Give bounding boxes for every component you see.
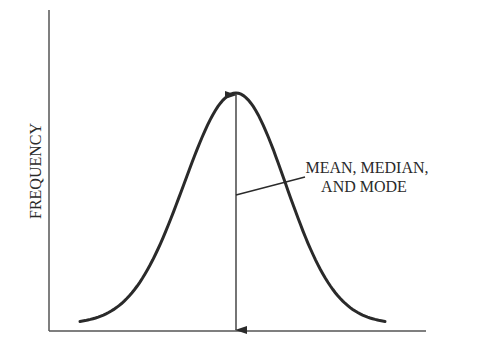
normal-curve xyxy=(80,93,385,321)
annotation-line-1: MEAN, MEDIAN, xyxy=(305,159,428,176)
y-axis-label: FREQUENCY xyxy=(27,123,44,219)
annotation-line-2: AND MODE xyxy=(321,178,407,195)
bell-curve-diagram: MEAN, MEDIAN, AND MODE FREQUENCY xyxy=(0,0,478,357)
annotation-leader-line xyxy=(236,177,305,195)
